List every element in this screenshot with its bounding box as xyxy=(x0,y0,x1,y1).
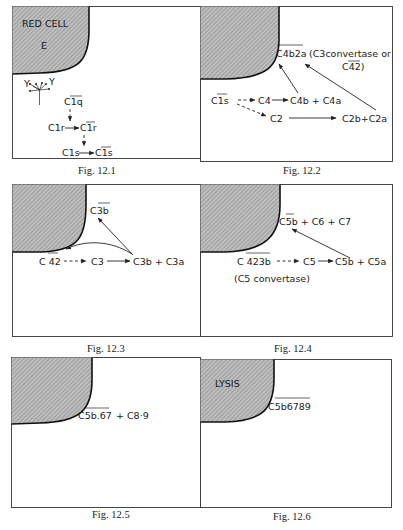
node-c4b-c4a: C4b + C4a xyxy=(290,95,341,106)
node-c42: C 42 xyxy=(39,256,61,267)
panel-fig-12-5: C5b.67 + C8·9 Fig. 12.5 xyxy=(12,358,201,521)
figure-caption: Fig. 12.1 xyxy=(78,165,116,176)
panel-fig-12-3: C3b C 42 C3 C3b + C3a Fig. 12.3 xyxy=(13,185,201,355)
node-c5: C5 xyxy=(303,256,316,267)
antibody-label-left: Y xyxy=(23,78,30,89)
cell-label: RED CELL xyxy=(22,18,69,29)
cell-sublabel: E xyxy=(41,40,47,51)
node-c3b-c3a: C3b + C3a xyxy=(133,256,184,267)
node-c423b: C 423b xyxy=(237,256,271,267)
node-c2b-c2a: C2b+C2a xyxy=(342,113,387,124)
node-c2: C2 xyxy=(270,113,283,124)
node-c5b-c6-c7: C5b + C6 + C7 xyxy=(279,216,351,227)
complement-pathway-figure: RED CELL E Y Y C1q C1r C1r C1s xyxy=(0,0,403,530)
node-c1s: C1s xyxy=(62,147,80,158)
lysis-label: LYSIS xyxy=(215,378,240,389)
panel-fig-12-2: C4b2a (C3convertase or C42) C1s C4 C4b +… xyxy=(201,7,393,177)
note-c42: C42) xyxy=(342,61,364,72)
figure-caption: Fig. 12.2 xyxy=(283,165,321,176)
node-c5b67: C5b.67 xyxy=(78,410,112,421)
figure-caption: Fig. 12.5 xyxy=(92,509,130,520)
node-c1q: C1q xyxy=(64,96,83,107)
note-c3-convertase: (C3convertase or xyxy=(309,48,391,59)
panel-fig-12-1: RED CELL E Y Y C1q C1r C1r C1s xyxy=(13,7,201,177)
figure-caption: Fig. 12.3 xyxy=(87,343,125,354)
antibody-label-right: Y xyxy=(48,76,55,87)
node-c5b-c5a: C5b + C5a xyxy=(335,256,386,267)
node-c89: + C8·9 xyxy=(116,410,149,421)
node-c4: C4 xyxy=(258,95,271,106)
node-c3b-bound: C3b xyxy=(90,205,109,216)
node-c1s-activated: C1s xyxy=(211,95,229,106)
figure-caption: Fig. 12.6 xyxy=(273,511,311,522)
node-c1s-activated: C1s xyxy=(95,147,113,158)
red-cell-region xyxy=(201,7,280,80)
figure-caption: Fig. 12.4 xyxy=(274,343,312,354)
node-c3: C3 xyxy=(91,256,104,267)
panel-fig-12-6: LYSIS C5b6789 Fig. 12.6 xyxy=(201,360,392,523)
note-c5-convertase: (C5 convertase) xyxy=(234,273,310,284)
node-c5b6789: C5b6789 xyxy=(268,401,311,412)
node-c4b2a: C4b2a xyxy=(276,48,307,59)
node-c1r-activated: C1r xyxy=(80,122,97,133)
panel-fig-12-4: C5b + C6 + C7 C 423b C5 C5b + C5a (C5 co… xyxy=(201,185,393,355)
node-c1r: C1r xyxy=(48,122,65,133)
